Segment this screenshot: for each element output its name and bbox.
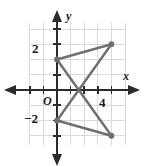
y-tick-label-2: 2 [32,42,39,55]
plot-area [0,0,145,166]
point-D [109,133,115,139]
x-axis-label: x [123,70,129,82]
x-tick-label-4: 4 [99,96,106,109]
origin-label: O [43,95,52,107]
point-C [54,118,60,124]
x-axis-arrow-right [128,85,140,95]
y-tick-label-minus-2: −2 [24,112,38,125]
point-A [54,57,60,63]
axis-lines [4,10,140,166]
y-axis-arrow-up [52,10,62,22]
y-axis-arrow-down [52,154,62,166]
coordinate-plane-figure: 2 −2 4 x y O [0,0,145,166]
point-B [109,41,115,47]
x-axis-arrow-left [4,85,16,95]
y-axis-label: y [66,10,71,22]
